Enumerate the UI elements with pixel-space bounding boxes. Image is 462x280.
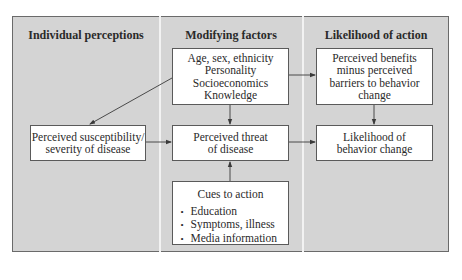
- arrows-layer: [0, 0, 462, 280]
- arrow-modifying-to-susceptibility: [90, 78, 172, 124]
